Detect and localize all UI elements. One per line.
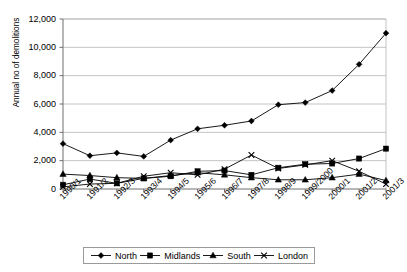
data-point-diamond xyxy=(168,137,174,143)
data-point-triangle xyxy=(210,252,216,258)
data-point-square xyxy=(148,253,153,258)
legend-label: North xyxy=(115,251,137,261)
legend-label: South xyxy=(227,251,251,261)
plot-area xyxy=(0,0,407,272)
legend-item-south[interactable]: South xyxy=(202,250,251,261)
legend-marker-cross-icon xyxy=(253,250,275,261)
data-point-diamond xyxy=(302,100,308,106)
data-point-diamond xyxy=(60,141,66,147)
legend-item-north[interactable]: North xyxy=(90,250,137,261)
series-line xyxy=(63,149,386,185)
data-point-diamond xyxy=(98,253,104,259)
data-point-diamond xyxy=(275,102,281,108)
data-point-diamond xyxy=(114,150,120,156)
legend-marker-diamond-icon xyxy=(90,250,112,261)
data-point-triangle xyxy=(60,171,66,177)
data-point-square xyxy=(356,156,361,161)
data-point-diamond xyxy=(222,122,228,128)
legend-marker-triangle-icon xyxy=(202,250,224,261)
legend-label: London xyxy=(278,251,308,261)
data-point-diamond xyxy=(141,154,147,160)
series-line xyxy=(63,33,386,156)
data-point-square xyxy=(383,146,388,151)
data-point-diamond xyxy=(195,126,201,132)
legend-label: Midlands xyxy=(164,251,200,261)
chart-legend: NorthMidlandsSouthLondon xyxy=(83,247,315,264)
chart-figure: Annual no of demolitions 12,00010,0008,0… xyxy=(0,0,407,272)
legend-item-london[interactable]: London xyxy=(253,250,308,261)
data-point-diamond xyxy=(87,153,93,159)
data-point-cross xyxy=(249,152,255,158)
data-point-diamond xyxy=(249,118,255,124)
legend-item-midlands[interactable]: Midlands xyxy=(139,250,200,261)
legend-marker-square-icon xyxy=(139,250,161,261)
series-north xyxy=(60,30,389,159)
